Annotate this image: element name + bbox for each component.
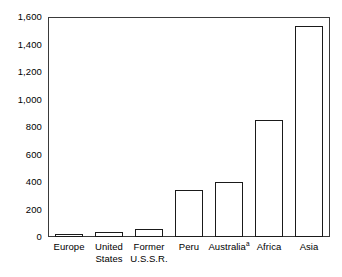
- y-axis-labels: 1,6001,4001,2001,0008006004002000: [0, 0, 42, 277]
- y-axis-tick-label: 1,400: [2, 40, 42, 50]
- bar: [255, 120, 283, 237]
- x-axis-category-label: Asia: [283, 241, 335, 253]
- bars-layer: [49, 18, 329, 237]
- bar: [95, 232, 123, 237]
- y-axis-tick-label: 0: [2, 232, 42, 242]
- bar: [55, 234, 83, 237]
- category-label-line1: Asia: [283, 241, 335, 253]
- y-axis-tick-label: 400: [2, 177, 42, 187]
- y-axis-tick-label: 1,600: [2, 12, 42, 22]
- bar: [295, 26, 323, 237]
- y-axis-tick-label: 800: [2, 122, 42, 132]
- x-axis-category-labels: EuropeUnitedStatesFormerU.S.S.R.PeruAust…: [49, 241, 329, 277]
- category-label-line2: U.S.S.R.: [123, 253, 175, 265]
- bar: [175, 190, 203, 237]
- bar: [135, 229, 163, 237]
- y-axis-tick-label: 1,200: [2, 67, 42, 77]
- bar-chart: 1,6001,4001,2001,0008006004002000 Europe…: [0, 0, 342, 277]
- y-axis-tick-label: 600: [2, 150, 42, 160]
- y-axis-tick-label: 1,000: [2, 95, 42, 105]
- y-axis-tick-label: 200: [2, 205, 42, 215]
- bar: [215, 182, 243, 237]
